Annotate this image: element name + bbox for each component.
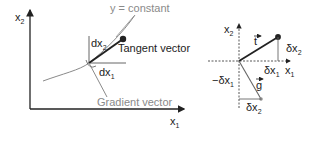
curve-label: y = constant	[110, 2, 170, 14]
neg-delta-x1-label: −δx1	[212, 74, 234, 88]
delta-x2-right-label: δx2	[286, 42, 302, 56]
dx1-label: dx1	[99, 66, 115, 80]
gradient-tangent-figure: x2 x1 y = constant dx2 dx1 Tangent vecto…	[0, 0, 309, 142]
left-x-axis-label: x1	[170, 115, 180, 129]
right-diagram: x2 x1 t δx2 δx1 g −δx1 δx2	[208, 23, 302, 115]
gradient-label: Gradient vector	[97, 96, 173, 108]
curve-label-leader	[116, 16, 134, 37]
left-y-axis-label: x2	[15, 11, 25, 25]
t-vector-label: t	[254, 35, 257, 47]
tangent-label: Tangent vector	[118, 42, 190, 54]
t-vector	[239, 37, 278, 61]
right-x-axis-label: x1	[285, 64, 295, 78]
right-y-axis-label: x2	[224, 23, 234, 37]
left-diagram: x2 x1 y = constant dx2 dx1 Tangent vecto…	[15, 2, 190, 129]
g-vector-label: g	[256, 79, 262, 91]
delta-x2-bottom-label: δx2	[246, 101, 262, 115]
delta-x1-label: δx1	[264, 64, 280, 78]
dx2-label: dx2	[91, 37, 107, 51]
